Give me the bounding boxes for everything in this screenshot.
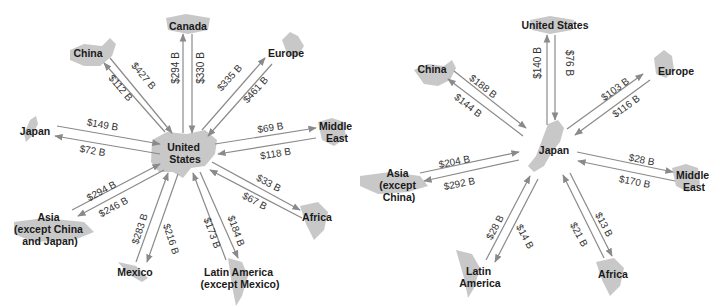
value-us-to-middle-east: $69 B <box>257 120 285 135</box>
value-us-to-japan: $76 B <box>564 50 575 76</box>
value-us-to-china: $112 B <box>107 72 136 103</box>
value-us-to-canada: $294 B <box>170 52 181 84</box>
value-japan-to-us: $140 B <box>532 47 543 79</box>
label-europe: Europe <box>268 47 304 59</box>
value-us-to-africa: $33 B <box>255 172 284 194</box>
value-japan-to-latam: $14 B <box>514 222 536 251</box>
value-us-to-latam: $184 B <box>226 214 247 248</box>
label-china-right: China <box>417 63 446 75</box>
label-europe-right: Europe <box>658 65 694 77</box>
label-asia: Asia (except China and Japan) <box>14 211 86 247</box>
label-japan: Japan <box>20 125 50 137</box>
label-united-states: United States <box>521 19 588 31</box>
us-trade-diagram: United States China Canada Europe Japan … <box>14 14 355 306</box>
value-japan-to-us: $149 B <box>86 116 119 132</box>
label-africa-right: Africa <box>598 268 628 280</box>
value-mexico-to-us: $283 B <box>130 212 150 246</box>
us-hub-label: United States <box>167 141 203 165</box>
trade-flow-diagrams: United States China Canada Europe Japan … <box>0 0 723 307</box>
japan-trade-diagram: Japan United States China Europe Asia (e… <box>360 16 712 298</box>
value-us-to-japan: $72 B <box>79 143 107 158</box>
label-latin-america: Latin America (except Mexico) <box>201 266 280 290</box>
value-japan-to-middle-east: $28 B <box>628 152 656 168</box>
value-japan-to-asia: $292 B <box>443 175 477 192</box>
value-us-to-europe: $335 B <box>215 62 245 93</box>
value-us-to-asia: $246 B <box>97 194 130 219</box>
value-us-to-mexico: $216 B <box>161 222 181 256</box>
label-africa: Africa <box>302 211 332 223</box>
value-asia-to-japan: $204 B <box>438 153 472 170</box>
value-canada-to-us: $330 B <box>195 52 206 84</box>
value-middle-east-to-us: $118 B <box>259 146 292 162</box>
value-asia-to-us: $294 B <box>85 178 118 203</box>
label-mexico: Mexico <box>117 266 153 278</box>
label-china: China <box>73 47 102 59</box>
value-china-to-japan: $188 B <box>467 72 499 100</box>
japan-hub-label: Japan <box>539 144 569 156</box>
label-latin-america-right: Latin America <box>459 265 501 289</box>
label-canada: Canada <box>169 20 207 32</box>
value-europe-to-us: $461 B <box>241 74 271 105</box>
value-latam-to-us: $173 B <box>202 216 223 250</box>
label-asia-right: Asia (except China) <box>379 167 419 203</box>
value-japan-to-china: $144 B <box>452 91 484 119</box>
